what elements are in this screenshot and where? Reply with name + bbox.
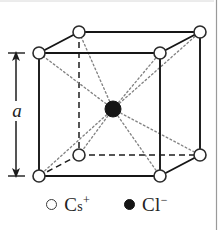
atom-cs-back-top-left: [73, 26, 85, 38]
dimension-label-a: a: [6, 101, 28, 121]
bond-back-bottom-left: [79, 109, 113, 155]
atom-cs-front-top-right: [154, 47, 166, 59]
legend-cs-element: C: [64, 194, 77, 215]
atom-cs-back-bottom-left: [73, 149, 85, 161]
bond-front-bottom-left: [39, 109, 113, 176]
legend-item-chloride: Cl−: [124, 194, 168, 216]
legend-cl-charge: −: [161, 193, 168, 207]
bond-front-top-left: [39, 53, 113, 109]
atom-cs-back-bottom-right: [194, 149, 206, 161]
ion-legend: Cs+ Cl−: [0, 188, 214, 222]
legend-label-cesium: Cs+: [64, 194, 90, 216]
bond-back-top-left: [79, 32, 113, 109]
atom-cs-front-bottom-right: [154, 170, 166, 182]
legend-item-cesium: Cs+: [46, 194, 90, 216]
legend-cs-charge: +: [83, 193, 90, 207]
bond-back-top-right: [113, 32, 200, 109]
bond-front-bottom-right: [113, 109, 160, 176]
bond-front-top-right: [113, 53, 160, 109]
legend-cl-element: Cl: [142, 194, 161, 215]
atom-cs-front-top-left: [33, 47, 45, 59]
atom-cl-body-center: [105, 101, 121, 117]
filled-circle-icon: [124, 199, 135, 210]
cscl-unit-cell-figure: a Cs+ Cl−: [0, 0, 223, 230]
atom-cs-back-top-right: [194, 26, 206, 38]
bond-back-bottom-right: [113, 109, 200, 155]
open-circle-icon: [46, 199, 57, 210]
legend-label-chloride: Cl−: [142, 194, 168, 216]
atom-cs-front-bottom-left: [33, 170, 45, 182]
